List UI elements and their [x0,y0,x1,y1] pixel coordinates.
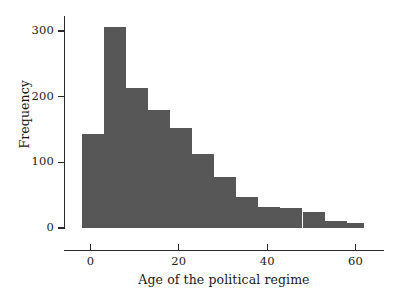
histogram-bar [148,110,170,228]
x-axis-tick-label: 0 [66,256,116,268]
bar-series [64,18,382,228]
x-axis-tick-label: 60 [331,256,381,268]
x-axis-tick [90,244,91,250]
histogram-bar [104,27,126,228]
histogram-bar [82,134,104,228]
x-axis-tick [355,244,356,250]
histogram-bar [214,177,236,228]
histogram-bar [258,207,280,228]
y-axis-title: Frequency [19,44,32,184]
y-axis-tick [58,96,64,97]
x-axis-title: Age of the political regime [64,274,384,287]
histogram-bar [170,128,192,228]
y-axis-line [64,16,65,229]
y-axis-tick-label: 300 [31,25,54,37]
y-axis-tick-label: 0 [46,222,54,234]
x-axis-tick-label: 20 [154,256,204,268]
histogram-figure: 0100200300 0204060 Age of the political … [0,0,400,303]
y-axis-tick [58,30,64,31]
x-axis-line [64,250,384,251]
histogram-bar [126,88,148,228]
histogram-bar [280,208,302,228]
histogram-bar [325,221,347,228]
plot-area [64,18,382,228]
y-axis-tick-label: 100 [31,156,54,168]
x-axis-tick-label: 40 [242,256,292,268]
y-axis-tick [58,162,64,163]
x-axis-tick [178,244,179,250]
y-axis-tick [58,227,64,228]
histogram-bar [347,223,365,228]
x-axis-tick [267,244,268,250]
y-axis-tick-label: 200 [31,91,54,103]
histogram-bar [236,197,258,229]
histogram-bar [303,212,325,228]
histogram-bar [192,154,214,228]
